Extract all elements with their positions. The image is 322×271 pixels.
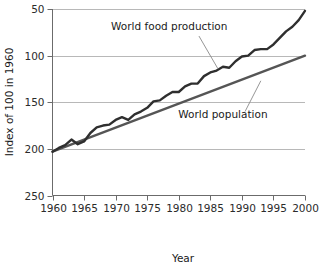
x-tick-label-1990: 1990 [229, 202, 256, 214]
series-label-world-population: World population [178, 108, 267, 120]
x-tick-label-1980: 1980 [166, 202, 193, 214]
series-label-world-food-production: World food production [111, 20, 227, 32]
y-axis-title: Index of 100 in 1960 [3, 48, 15, 157]
x-tick-label-1995: 1995 [260, 202, 287, 214]
y-tick-label-200: 100 [24, 50, 44, 62]
y-tick-label-100: 200 [24, 143, 44, 155]
x-tick-label-1965: 1965 [71, 202, 98, 214]
x-tick-label-1960: 1960 [40, 202, 67, 214]
x-tick-label-1975: 1975 [134, 202, 161, 214]
y-tick-label-150: 150 [24, 96, 44, 108]
x-axis-tick-labels: 196019651970197519801985199019952000 [40, 202, 319, 214]
y-tick-label-250: 50 [31, 3, 44, 15]
x-axis-title: Year [171, 252, 195, 264]
x-tick-label-1970: 1970 [103, 202, 130, 214]
chart-container: 25020015010050 1960196519701975198019851… [0, 0, 322, 271]
line-chart: 25020015010050 1960196519701975198019851… [0, 0, 322, 271]
x-tick-label-2000: 2000 [292, 202, 319, 214]
y-tick-label-50: 250 [24, 190, 44, 202]
x-tick-label-1985: 1985 [197, 202, 224, 214]
chart-background [0, 0, 322, 271]
